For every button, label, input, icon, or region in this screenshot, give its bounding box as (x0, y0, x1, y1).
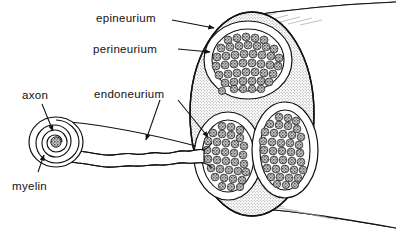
leader-endoneurium-fiber (146, 100, 160, 140)
label-axon: axon (22, 89, 48, 101)
nerve-anatomy-diagram: epineurium perineurium endoneurium axon … (0, 0, 398, 230)
label-myelin: myelin (12, 180, 47, 192)
label-endoneurium: endoneurium (94, 88, 164, 100)
label-perineurium: perineurium (93, 43, 157, 55)
myelin-spiral (29, 117, 83, 167)
label-epineurium: epineurium (96, 12, 156, 24)
fascicle-lower-right (252, 102, 318, 198)
fascicle-top (204, 21, 292, 99)
leader-epineurium (172, 20, 214, 28)
axon-core (51, 137, 61, 147)
